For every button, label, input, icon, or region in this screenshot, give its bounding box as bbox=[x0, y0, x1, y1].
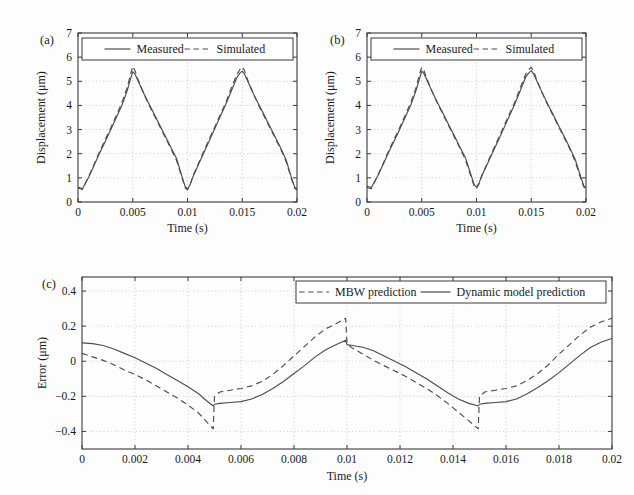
x-tick-label: 0.015 bbox=[518, 206, 544, 218]
y-tick-label: 0.4 bbox=[62, 285, 77, 297]
x-tick-label: 0.01 bbox=[466, 206, 486, 218]
legend-label: Dynamic model prediction bbox=[457, 285, 586, 299]
y-tick-label: −0.2 bbox=[55, 390, 76, 402]
y-tick-label: 1 bbox=[355, 172, 361, 184]
panel-tag: (c) bbox=[42, 277, 56, 291]
y-tick-label: 5 bbox=[355, 75, 361, 87]
legend-label: MBW prediction bbox=[335, 285, 416, 299]
x-tick-label: 0 bbox=[79, 453, 85, 465]
y-tick-label: 4 bbox=[355, 99, 361, 111]
y-axis-title: Error (μm) bbox=[35, 337, 49, 389]
legend: MeasuredSimulated bbox=[371, 38, 582, 60]
x-tick-label: 0.012 bbox=[387, 453, 413, 465]
y-tick-label: 3 bbox=[355, 124, 361, 136]
y-tick-label: −0.4 bbox=[55, 425, 76, 437]
legend-label: Simulated bbox=[217, 42, 266, 56]
x-tick-label: 0.008 bbox=[281, 453, 307, 465]
y-axis-title: Displacement (μm) bbox=[34, 71, 48, 164]
y-axis-title: Displacement (μm) bbox=[323, 71, 337, 164]
legend: MBW predictionDynamic model prediction bbox=[296, 281, 606, 303]
x-tick-label: 0.006 bbox=[228, 453, 254, 465]
x-tick-label: 0.004 bbox=[175, 453, 201, 465]
x-axis-title: Time (s) bbox=[456, 221, 497, 235]
y-tick-label: 6 bbox=[355, 51, 361, 63]
y-tick-label: 2 bbox=[355, 148, 361, 160]
x-axis-title: Time (s) bbox=[167, 221, 208, 235]
y-tick-label: 3 bbox=[66, 124, 72, 136]
x-tick-label: 0.02 bbox=[576, 206, 596, 218]
x-tick-label: 0.014 bbox=[440, 453, 466, 465]
y-tick-label: 0 bbox=[70, 355, 76, 367]
legend-label: Measured bbox=[137, 42, 184, 56]
y-tick-label: 0 bbox=[66, 196, 72, 208]
x-tick-label: 0.015 bbox=[229, 206, 255, 218]
x-tick-label: 0.002 bbox=[122, 453, 148, 465]
x-tick-label: 0.005 bbox=[409, 206, 435, 218]
figure-background bbox=[0, 0, 634, 495]
y-tick-label: 0 bbox=[355, 196, 361, 208]
panel-tag: (b) bbox=[330, 33, 345, 47]
figure-root: 00.0050.010.0150.0201234567Time (s)Displ… bbox=[0, 0, 634, 495]
x-tick-label: 0 bbox=[364, 206, 370, 218]
y-tick-label: 5 bbox=[66, 75, 72, 87]
x-tick-label: 0.018 bbox=[546, 453, 572, 465]
panel-tag: (a) bbox=[40, 33, 54, 47]
x-axis-title: Time (s) bbox=[327, 469, 368, 483]
y-tick-label: 2 bbox=[66, 148, 72, 160]
legend-label: Simulated bbox=[506, 42, 555, 56]
y-tick-label: 4 bbox=[66, 99, 72, 111]
x-tick-label: 0.01 bbox=[177, 206, 197, 218]
x-tick-label: 0.01 bbox=[337, 453, 357, 465]
x-tick-label: 0.005 bbox=[120, 206, 146, 218]
x-tick-label: 0 bbox=[75, 206, 81, 218]
multi-panel-figure: 00.0050.010.0150.0201234567Time (s)Displ… bbox=[0, 0, 634, 495]
x-tick-label: 0.016 bbox=[493, 453, 519, 465]
y-tick-label: 6 bbox=[66, 51, 72, 63]
x-tick-label: 0.02 bbox=[287, 206, 307, 218]
x-tick-label: 0.02 bbox=[602, 453, 622, 465]
legend: MeasuredSimulated bbox=[82, 38, 293, 60]
y-tick-label: 7 bbox=[66, 27, 72, 39]
y-tick-label: 0.2 bbox=[62, 320, 77, 332]
y-tick-label: 1 bbox=[66, 172, 72, 184]
y-tick-label: 7 bbox=[355, 27, 361, 39]
legend-label: Measured bbox=[426, 42, 473, 56]
